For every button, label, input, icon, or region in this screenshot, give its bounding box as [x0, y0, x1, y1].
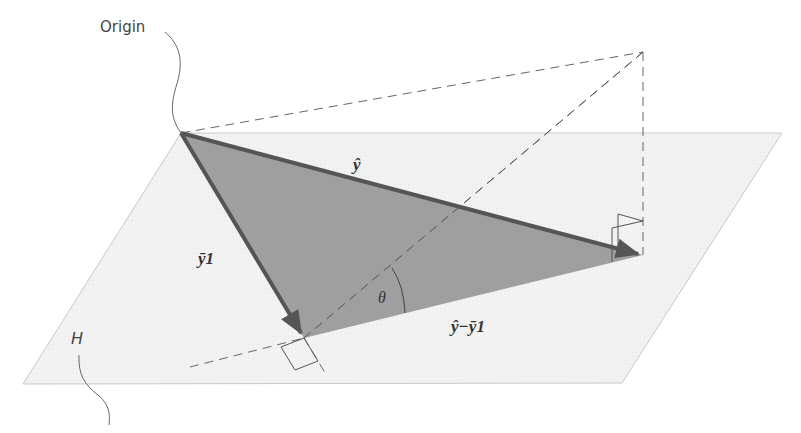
- yhat-label: ŷ: [351, 155, 361, 174]
- ybar-one-label: ȳ1: [196, 249, 214, 268]
- origin-pointer-line: [165, 32, 181, 133]
- theta-label: θ: [378, 289, 386, 306]
- difference-vector-label: ŷ−ȳ1: [449, 317, 485, 336]
- regression-geometry-diagram: Origin H ŷ ȳ1 θ ŷ−ȳ1: [0, 0, 801, 433]
- origin-label: Origin: [100, 18, 145, 36]
- plane-h-label: H: [71, 329, 83, 348]
